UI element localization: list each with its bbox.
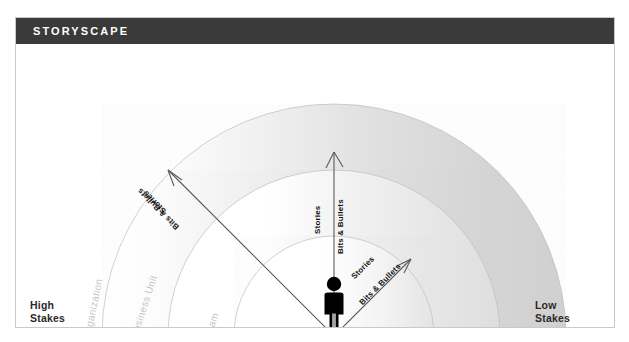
storyscape-svg xyxy=(16,44,615,328)
arrow-middle-label-stories: Stories xyxy=(313,205,322,234)
storyscape-diagram: Organization Business Unit Team Stories … xyxy=(16,44,615,328)
storyscape-panel: STORYSCAPE xyxy=(15,17,615,328)
label-high-stakes: High Stakes xyxy=(30,299,65,324)
page-title: STORYSCAPE xyxy=(33,25,129,37)
panel-title-bar: STORYSCAPE xyxy=(16,18,615,44)
label-low-stakes: Low Stakes xyxy=(535,299,570,324)
arrow-middle-label-bits-and-bullets: Bits & Bullets xyxy=(336,199,345,254)
